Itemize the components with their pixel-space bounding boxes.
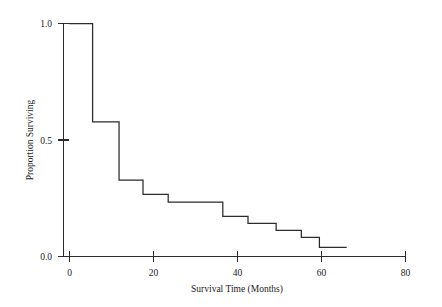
- survival-curve-figure: 1.0 0.5 0.0 0 20 40 60 80 Survival Time …: [0, 0, 442, 307]
- y-tick-label-1: 1.0: [40, 19, 52, 29]
- x-axis-title: Survival Time (Months): [191, 284, 283, 295]
- x-tick-label-60: 60: [317, 268, 327, 278]
- chart-canvas: 1.0 0.5 0.0 0 20 40 60 80 Survival Time …: [0, 0, 442, 307]
- y-tick-label-0: 0.0: [40, 252, 52, 262]
- x-tick-label-20: 20: [149, 268, 159, 278]
- axis-group: [64, 24, 407, 257]
- y-axis-title: Proportion Surviving: [25, 100, 35, 181]
- x-tick-label-40: 40: [233, 268, 243, 278]
- y-tick-label-0_5: 0.5: [40, 136, 52, 146]
- survival-step-curve: [70, 24, 347, 248]
- x-tick-label-0: 0: [67, 268, 72, 278]
- x-tick-label-80: 80: [401, 268, 411, 278]
